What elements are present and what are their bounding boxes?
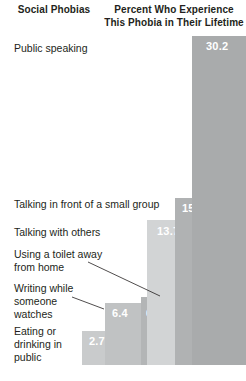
bar-public-speaking — [192, 36, 246, 365]
category-label-toilet-away: Using a toilet away from home — [14, 248, 124, 274]
category-label-public-speaking: Public speaking — [14, 42, 144, 55]
category-label-eating-drinking: Eating or drinking in public — [14, 325, 88, 364]
category-label-small-group: Talking in front of a small group — [14, 198, 174, 211]
bar-value-writing-watched: 6.4 — [112, 308, 128, 319]
plot-area: 2.7 6.4 6.6 13.7 15.2 30.2 — [0, 0, 246, 381]
bar-value-eating-drinking: 2.7 — [89, 336, 105, 347]
category-label-writing-watched: Writing while someone watches — [14, 282, 102, 321]
category-label-talking-others: Talking with others — [14, 226, 154, 239]
bar-value-public-speaking: 30.2 — [206, 41, 228, 52]
social-phobias-bar-chart: Social Phobias Percent Who Experience Th… — [0, 0, 246, 381]
